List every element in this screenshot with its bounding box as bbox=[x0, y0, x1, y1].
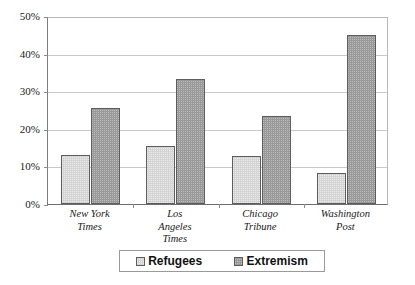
x-axis-label-line: Times bbox=[132, 233, 217, 246]
bar-refugees-chicago-tribune bbox=[232, 156, 261, 204]
y-axis-tick-label: 20% bbox=[20, 124, 40, 135]
bars-layer bbox=[48, 18, 387, 204]
y-axis-tick-label: 40% bbox=[20, 49, 40, 60]
y-axis: 0%10%20%30%40%50% bbox=[0, 10, 44, 210]
x-axis-label-line: Tribune bbox=[218, 221, 303, 234]
x-axis-label-chicago-tribune: ChicagoTribune bbox=[218, 208, 303, 233]
legend-item-extremism: Extremism bbox=[234, 255, 307, 268]
bar-chart: 0%10%20%30%40%50% New YorkTimesLosAngele… bbox=[0, 0, 415, 285]
bar-extremism-new-york-times bbox=[91, 108, 120, 204]
x-axis-label-washington-post: WashingtonPost bbox=[303, 208, 388, 233]
bar-extremism-los-angeles-times bbox=[176, 79, 205, 204]
x-axis-label-line: Chicago bbox=[218, 208, 303, 221]
x-axis-label-line: Washington bbox=[303, 208, 388, 221]
legend-label-refugees: Refugees bbox=[148, 255, 202, 268]
legend-swatch-refugees-icon bbox=[136, 257, 145, 266]
x-axis-label-los-angeles-times: LosAngelesTimes bbox=[132, 208, 217, 246]
bar-refugees-new-york-times bbox=[61, 155, 90, 204]
x-axis-label-line: Los bbox=[132, 208, 217, 221]
y-axis-tick-label: 50% bbox=[20, 11, 40, 22]
plot-area bbox=[47, 17, 388, 205]
legend-swatch-extremism-icon bbox=[234, 257, 243, 266]
x-axis-label-line: Angeles bbox=[132, 221, 217, 234]
y-axis-tick-label: 0% bbox=[25, 199, 40, 210]
bar-refugees-washington-post bbox=[317, 173, 346, 204]
bar-refugees-los-angeles-times bbox=[146, 146, 175, 204]
bar-extremism-chicago-tribune bbox=[262, 116, 291, 204]
x-axis-label-line: New York bbox=[47, 208, 132, 221]
bar-extremism-washington-post bbox=[347, 35, 376, 204]
chart-legend: Refugees Extremism bbox=[119, 250, 325, 272]
x-axis-label-line: Times bbox=[47, 221, 132, 234]
x-axis-label-line: Post bbox=[303, 221, 388, 234]
y-axis-tick-label: 30% bbox=[20, 86, 40, 97]
legend-item-refugees: Refugees bbox=[136, 255, 202, 268]
x-axis-category-labels: New YorkTimesLosAngelesTimesChicagoTribu… bbox=[47, 208, 388, 248]
legend-label-extremism: Extremism bbox=[246, 255, 307, 268]
y-axis-tick-mark bbox=[44, 205, 48, 206]
x-axis-label-new-york-times: New YorkTimes bbox=[47, 208, 132, 233]
y-axis-tick-label: 10% bbox=[20, 161, 40, 172]
